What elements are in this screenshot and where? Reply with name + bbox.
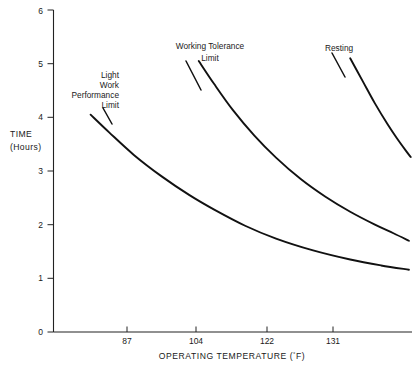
leader-line-resting [332, 53, 345, 77]
x-tick-label-122: 122 [260, 336, 274, 346]
y-tick-label-3: 3 [38, 166, 43, 176]
annotation-working-tolerance-limit: Working Tolerance Limit [176, 41, 245, 63]
x-tick-label-87: 87 [122, 336, 132, 346]
x-tick-label-104: 104 [189, 336, 203, 346]
y-axis-title-line2: (Hours) [10, 142, 41, 152]
y-axis-tick-labels: 0 1 2 3 4 5 6 [38, 6, 43, 338]
x-axis-title-tail: F) [296, 351, 305, 361]
annotation-light-work-line-1: Light [101, 70, 120, 80]
x-axis-title-main: OPERATING TEMPERATURE ( [159, 351, 293, 361]
curve-resting [350, 58, 411, 157]
annotation-light-work-line-2: Work [100, 80, 120, 90]
annotation-light-work-line-4: Limit [101, 100, 119, 110]
y-tick-label-2: 2 [38, 220, 43, 230]
chart-container: 0 1 2 3 4 5 6 87 104 122 131 OPERATING T… [0, 0, 418, 366]
annotation-light-work-performance-limit: Light Work Performance Limit [72, 70, 120, 110]
y-axis-title-line1: TIME [10, 129, 32, 139]
chart-svg: 0 1 2 3 4 5 6 87 104 122 131 OPERATING T… [0, 0, 418, 366]
y-tick-label-5: 5 [38, 59, 43, 69]
leader-line-working-tolerance [186, 61, 201, 90]
curve-working-tolerance-limit [199, 61, 409, 241]
y-tick-label-6: 6 [38, 6, 43, 16]
x-axis-tick-labels: 87 104 122 131 [122, 336, 340, 346]
annotation-working-tolerance-line-2: Limit [201, 53, 219, 63]
y-axis-ticks [48, 10, 54, 332]
y-tick-label-4: 4 [38, 112, 43, 122]
annotation-light-work-line-3: Performance [72, 90, 120, 100]
annotation-working-tolerance-line-1: Working Tolerance [176, 41, 245, 51]
leader-line-light-work [103, 108, 112, 124]
annotation-resting-line-1: Resting [325, 43, 354, 53]
annotation-resting: Resting [325, 43, 354, 53]
x-tick-label-131: 131 [326, 336, 340, 346]
y-tick-label-1: 1 [38, 273, 43, 283]
x-axis-title: OPERATING TEMPERATURE (°F) [159, 351, 306, 361]
x-axis-ticks [127, 327, 333, 333]
y-tick-label-0: 0 [38, 327, 43, 337]
y-axis-title: TIME (Hours) [10, 129, 41, 152]
curve-light-work-performance-limit [91, 115, 409, 270]
